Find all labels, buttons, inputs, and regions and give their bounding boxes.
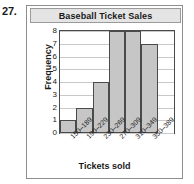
bar-series: [60, 31, 174, 133]
x-axis-label: Tickets sold: [27, 161, 182, 171]
y-tick-label: 8: [53, 27, 57, 35]
y-tick-label: 7: [53, 40, 57, 48]
y-tick-label: 1: [53, 116, 57, 124]
y-tick-label: 0: [53, 129, 57, 137]
chart-title: Baseball Ticket Sales: [59, 11, 153, 21]
y-tick-label: 3: [53, 91, 57, 99]
y-tick-label: 4: [53, 78, 57, 86]
exercise-number: 27.: [2, 5, 17, 17]
x-axis-tick-labels: 150–189190–229230–269270–309310–349350–3…: [59, 134, 175, 164]
y-axis-tick-labels: 876543210: [43, 30, 59, 134]
chart-panel: Baseball Ticket Sales Frequency 87654321…: [26, 5, 183, 179]
y-tick-label: 5: [53, 65, 57, 73]
exercise-figure: 27. Baseball Ticket Sales Frequency 8765…: [0, 0, 194, 184]
y-tick-label: 6: [53, 53, 57, 61]
chart-title-bar: Baseball Ticket Sales: [30, 8, 181, 23]
y-tick-label: 2: [53, 104, 57, 112]
